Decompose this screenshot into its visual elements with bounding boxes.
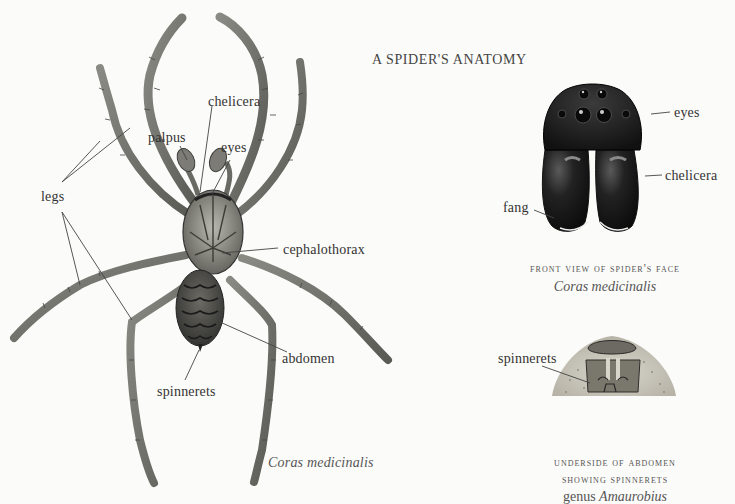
- cephalothorax: [183, 190, 243, 274]
- face-caption-title: FRONT VIEW OF SPIDER'S FACE: [500, 260, 710, 277]
- label-cephalothorax: cephalothorax: [283, 243, 365, 257]
- underside-caption: UNDERSIDE OF ABDOMEN SHOWING SPINNERETS …: [520, 454, 710, 504]
- underside-caption-line1: UNDERSIDE OF ABDOMEN: [520, 454, 710, 471]
- label-spinnerets: spinnerets: [157, 385, 216, 399]
- label-eyes: eyes: [221, 141, 247, 155]
- label-chelicera: chelicera: [208, 95, 260, 109]
- underside-caption-line2: SHOWING SPINNERETS: [520, 471, 710, 488]
- label-abdomen: abdomen: [282, 352, 335, 366]
- face-caption: FRONT VIEW OF SPIDER'S FACE Coras medici…: [500, 260, 710, 297]
- face-caption-species: Coras medicinalis: [500, 277, 710, 297]
- genus-prefix: genus: [563, 489, 596, 504]
- face-label-eyes: eyes: [674, 106, 700, 120]
- genus-name: Amaurobius: [599, 489, 667, 504]
- face-label-chelicera: chelicera: [665, 169, 717, 183]
- abdomen-underside-illustration: [542, 336, 676, 396]
- face-label-fang: fang: [503, 201, 529, 215]
- spider-illustration: [0, 0, 735, 504]
- underside-label-spinnerets: spinnerets: [498, 352, 557, 366]
- abdomen: [176, 270, 224, 352]
- page-title: A SPIDER'S ANATOMY: [372, 52, 527, 68]
- underside-caption-genus: genus Amaurobius: [520, 487, 710, 504]
- face-illustration: [534, 84, 670, 231]
- main-species-caption: Coras medicinalis: [268, 456, 374, 470]
- label-palpus: palpus: [148, 131, 186, 145]
- label-legs: legs: [41, 190, 64, 204]
